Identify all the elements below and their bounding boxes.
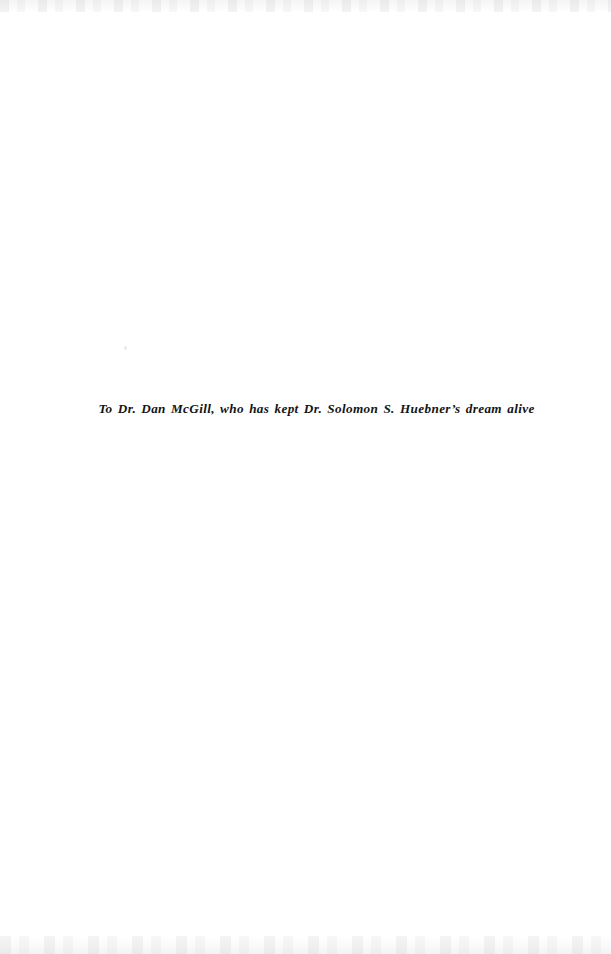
document-page: To Dr. Dan McGill, who has kept Dr. Solo… xyxy=(0,0,611,954)
scan-bleedthrough-artifact-top xyxy=(0,0,611,12)
scan-bleedthrough-artifact-bottom xyxy=(0,936,611,954)
dedication-text: To Dr. Dan McGill, who has kept Dr. Solo… xyxy=(98,399,534,418)
scan-speck-artifact xyxy=(124,346,127,350)
dedication-block: To Dr. Dan McGill, who has kept Dr. Solo… xyxy=(0,399,611,418)
